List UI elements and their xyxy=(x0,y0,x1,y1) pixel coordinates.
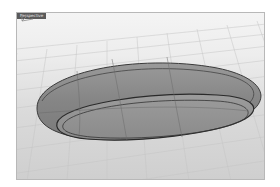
grid-and-model xyxy=(17,13,265,180)
oval-tray-model[interactable] xyxy=(37,57,261,141)
world-axis-icon xyxy=(21,13,35,23)
perspective-viewport[interactable]: Perspective xyxy=(16,12,265,180)
